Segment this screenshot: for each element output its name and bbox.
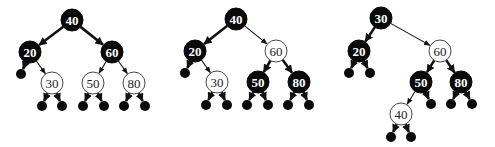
- node-label: 40: [395, 107, 408, 122]
- nil-leaf: [467, 99, 477, 109]
- edge-50-to-nil: [98, 93, 102, 101]
- edge-50-to-nil: [85, 93, 88, 101]
- edge-40-to-nil: [405, 124, 408, 132]
- tree-1: 402060305080: [16, 9, 150, 111]
- red-node-30: 30: [206, 71, 228, 93]
- edge-30-to-60: [391, 23, 430, 45]
- node-label: 60: [106, 45, 119, 60]
- node-label: 20: [189, 44, 202, 59]
- red-node-60: 60: [265, 40, 287, 62]
- edge-30-to-nil: [44, 93, 47, 101]
- edge-30-to-nil: [56, 93, 59, 101]
- node-label: 80: [293, 75, 306, 90]
- edge-50-to-40: [407, 91, 415, 104]
- nil-leaf: [283, 100, 293, 110]
- node-label: 60: [270, 44, 283, 59]
- edge-80-to-nil: [290, 92, 294, 100]
- edge-80-to-nil: [466, 92, 470, 99]
- nil-leaf: [426, 99, 436, 109]
- nil-leaf: [263, 100, 273, 110]
- nil-leaf: [365, 68, 375, 78]
- black-node-20: 20: [184, 40, 206, 62]
- node-label: 80: [128, 76, 141, 91]
- edge-30-to-nil: [221, 92, 224, 100]
- red-node-40: 40: [390, 103, 412, 125]
- node-label: 80: [455, 75, 468, 90]
- edge-40-to-60: [245, 26, 267, 44]
- red-node-50: 50: [82, 72, 104, 94]
- edge-40-to-60: [81, 27, 103, 45]
- edge-40-to-20: [204, 26, 227, 44]
- edge-30-to-nil: [208, 92, 212, 100]
- red-node-30: 30: [41, 72, 63, 94]
- edge-50-to-nil: [249, 92, 253, 100]
- black-node-20: 20: [19, 41, 41, 63]
- edge-80-to-nil: [126, 93, 129, 101]
- node-label: 50: [415, 75, 428, 90]
- nil-leaf: [140, 101, 150, 111]
- node-label: 50: [252, 75, 265, 90]
- red-node-80: 80: [123, 72, 145, 94]
- nil-leaf: [386, 132, 396, 142]
- red-node-60: 60: [429, 40, 451, 62]
- nil-leaf: [99, 101, 109, 111]
- node-label: 30: [211, 75, 224, 90]
- edge-40-to-nil: [393, 124, 396, 132]
- red-black-tree-diagram: 402060305080402060305080302060508040: [0, 0, 495, 147]
- node-label: 30: [375, 11, 388, 26]
- black-node-30: 30: [370, 7, 392, 29]
- nil-leaf: [222, 100, 232, 110]
- node-label: 40: [66, 13, 79, 28]
- edge-20-to-30: [36, 61, 45, 74]
- black-node-40: 40: [225, 8, 247, 30]
- node-label: 20: [353, 44, 366, 59]
- nil-leaf: [304, 100, 314, 110]
- edge-60-to-50: [427, 60, 434, 72]
- nil-leaf: [78, 101, 88, 111]
- black-node-40: 40: [61, 9, 83, 31]
- nil-leaf: [57, 101, 67, 111]
- black-node-60: 60: [101, 41, 123, 63]
- edge-60-to-80: [118, 61, 127, 74]
- nil-leaf: [344, 68, 354, 78]
- edge-50-to-nil: [262, 92, 265, 100]
- nil-leaf: [242, 100, 252, 110]
- nil-leaf: [180, 68, 190, 78]
- node-label: 40: [230, 12, 243, 27]
- edge-20-to-nil: [351, 61, 354, 68]
- nil-leaf: [201, 100, 211, 110]
- edge-20-to-30: [201, 60, 210, 73]
- edge-40-to-20: [39, 27, 63, 45]
- nil-leaf: [406, 132, 416, 142]
- nil-leaf: [446, 99, 456, 109]
- edge-80-to-nil: [453, 92, 456, 99]
- nil-leaf: [37, 101, 47, 111]
- node-label: 30: [46, 76, 59, 91]
- tree-3: 302060508040: [344, 7, 477, 142]
- edge-20-to-nil: [364, 61, 368, 68]
- edge-60-to-80: [283, 60, 293, 73]
- node-label: 60: [434, 44, 447, 59]
- black-node-20: 20: [348, 40, 370, 62]
- black-node-50: 50: [247, 71, 269, 93]
- edge-80-to-nil: [139, 93, 143, 101]
- edge-60-to-50: [99, 61, 106, 73]
- nil-leaf: [16, 69, 26, 79]
- black-node-50: 50: [410, 71, 432, 93]
- edge-20-to-nil: [187, 61, 190, 68]
- black-node-80: 80: [288, 71, 310, 93]
- edge-80-to-nil: [303, 92, 306, 100]
- node-label: 50: [87, 76, 100, 91]
- nil-leaf: [119, 101, 129, 111]
- node-label: 20: [24, 45, 37, 60]
- edge-60-to-80: [446, 60, 454, 72]
- black-node-80: 80: [450, 71, 472, 93]
- edge-60-to-50: [264, 61, 271, 73]
- edge-20-to-nil: [23, 62, 26, 69]
- edge-30-to-20: [365, 27, 375, 41]
- edge-50-to-nil: [426, 92, 429, 99]
